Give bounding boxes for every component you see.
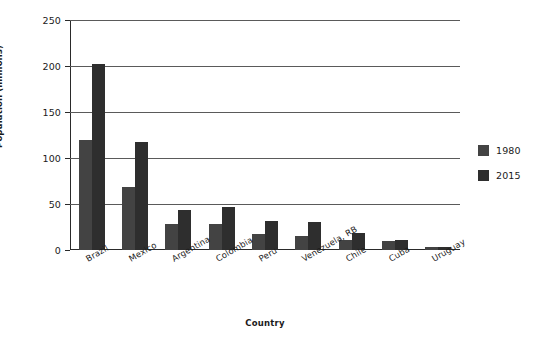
y-axis-tick (65, 250, 70, 251)
bar-mexico-2015[interactable] (135, 142, 148, 250)
legend-label-1980: 1980 (496, 145, 521, 156)
bar-group (373, 20, 416, 250)
x-axis-tick-labels: BrazilMexicoArgentinaColombiaPeruVenezue… (70, 252, 460, 312)
y-axis-tick-label: 100 (43, 153, 61, 164)
bar-uruguay-1980[interactable] (425, 247, 438, 250)
y-axis-tick-label: 0 (55, 245, 61, 256)
x-axis-title: Country (70, 318, 460, 328)
y-axis-title: Population (millions) (0, 45, 4, 148)
bar-colombia-1980[interactable] (209, 224, 222, 250)
bar-group (287, 20, 330, 250)
bar-venezuela-rb-1980[interactable] (295, 236, 308, 250)
bar-chart: Population (millions) 050100150200250 Br… (0, 0, 544, 343)
legend-label-2015: 2015 (496, 170, 521, 181)
bar-group (330, 20, 373, 250)
bar-mexico-1980[interactable] (122, 187, 135, 250)
bar-brazil-1980[interactable] (79, 140, 92, 250)
y-axis-tick-label: 200 (43, 61, 61, 72)
chart-legend: 1980 2015 (478, 145, 521, 181)
bar-groups (70, 20, 460, 250)
legend-item-2015[interactable]: 2015 (478, 170, 521, 181)
bar-argentina-1980[interactable] (165, 224, 178, 250)
y-axis-tick-label: 150 (43, 107, 61, 118)
plot-area: 050100150200250 (70, 20, 460, 250)
bar-group (243, 20, 286, 250)
legend-item-1980[interactable]: 1980 (478, 145, 521, 156)
bar-group (200, 20, 243, 250)
bar-group (70, 20, 113, 250)
bar-group (113, 20, 156, 250)
bar-brazil-2015[interactable] (92, 64, 105, 250)
bar-group (417, 20, 460, 250)
bar-cuba-1980[interactable] (382, 241, 395, 250)
legend-swatch-icon-1980 (478, 145, 489, 156)
legend-swatch-icon-2015 (478, 170, 489, 181)
y-axis-tick-label: 250 (43, 15, 61, 26)
bar-group (157, 20, 200, 250)
y-axis-tick-label: 50 (49, 199, 61, 210)
